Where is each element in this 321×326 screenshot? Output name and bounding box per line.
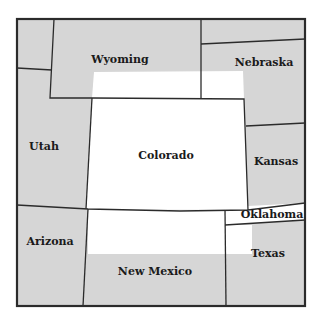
label-colorado: Colorado (138, 149, 194, 162)
label-new-mexico: New Mexico (118, 265, 192, 278)
label-oklahoma: Oklahoma (241, 208, 304, 221)
label-texas: Texas (251, 247, 285, 260)
map: Wyoming Nebraska Utah Colorado Kansas Ok… (0, 0, 321, 326)
label-kansas: Kansas (254, 155, 298, 168)
label-arizona: Arizona (25, 235, 73, 248)
label-nebraska: Nebraska (235, 56, 294, 69)
highlight-top (92, 71, 244, 99)
label-utah: Utah (29, 140, 59, 153)
label-wyoming: Wyoming (90, 53, 149, 66)
